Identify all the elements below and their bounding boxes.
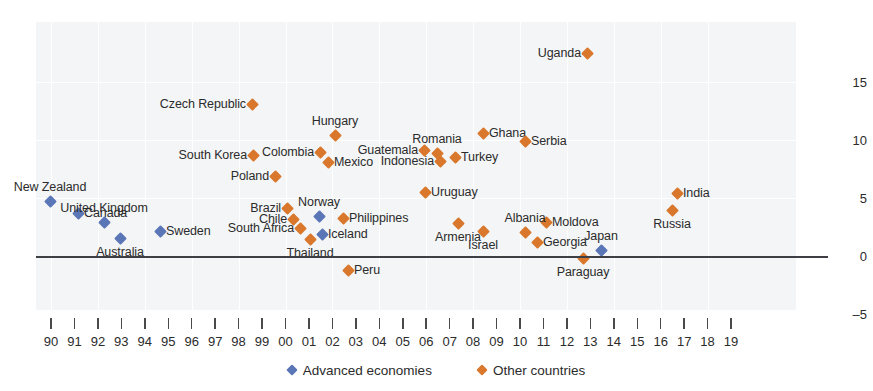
x-axis-tick-mark [285,318,287,329]
x-axis-tick-label: 93 [114,334,128,349]
x-axis-tick-mark [449,318,451,329]
data-point-label: Israel [468,239,498,252]
x-axis-tick-label: 10 [513,334,527,349]
data-point-label: South Korea [179,149,247,162]
gridline-vertical [192,22,193,310]
data-point-label: Uruguay [431,186,478,199]
x-axis-tick-mark [214,318,216,329]
x-axis-tick-label: 04 [372,334,386,349]
x-axis-tick-mark [121,318,123,329]
x-axis-tick-mark [144,318,146,329]
x-axis-tick-label: 14 [607,334,621,349]
x-axis-tick-label: 01 [302,334,316,349]
gridline-vertical [239,22,240,310]
x-axis-tick-label: 94 [138,334,152,349]
x-axis-tick-label: 05 [396,334,410,349]
x-axis-tick-label: 95 [161,334,175,349]
y-axis-tick-label: 10 [827,133,867,148]
data-point-label: Ghana [489,127,526,140]
x-axis-tick-label: 17 [677,334,691,349]
data-point-label: Poland [231,170,269,183]
x-axis-tick-label: 07 [442,334,456,349]
gridline-vertical [98,22,99,310]
x-axis-tick-mark [683,318,685,329]
data-point-label: South Africa [228,222,294,235]
data-point-label: Colombia [262,146,314,159]
data-point-label: Russia [653,218,691,231]
x-axis-tick-label: 16 [653,334,667,349]
y-axis-tick-label: 5 [827,191,867,206]
x-axis-tick-mark [97,318,99,329]
x-axis-tick-mark [402,318,404,329]
x-axis-tick-label: 96 [184,334,198,349]
data-point-label: United Kingdom [60,202,148,215]
x-axis-tick-label: 09 [489,334,503,349]
data-point-label: Uganda [538,47,581,60]
legend-label-other: Other countries [493,363,585,378]
gridline-vertical [286,22,287,310]
x-axis-tick-mark [730,318,732,329]
data-point-label: Japan [584,230,618,243]
x-axis-tick-label: 15 [630,334,644,349]
x-axis-tick-mark [543,318,545,329]
legend-item-advanced[interactable]: Advanced economies [288,363,432,378]
x-axis-tick-label: 00 [278,334,292,349]
x-axis-tick-mark [613,318,615,329]
gridline-vertical [520,22,521,310]
data-point-label: Indonesia [381,155,434,168]
y-axis-tick-label: 15 [827,75,867,90]
x-axis-tick-mark [332,318,334,329]
x-axis-tick-label: 13 [583,334,597,349]
data-point-label: Norway [298,196,340,209]
data-point-label: Georgia [543,236,587,249]
scatter-chart: New ZealandCanadaUnited KingdomAustralia… [0,0,873,391]
data-point-label: Moldova [552,216,599,229]
gridline-vertical [51,22,52,310]
x-axis-tick-mark [425,318,427,329]
x-axis-tick-mark [308,318,310,329]
data-point-label: Hungary [312,115,359,128]
legend-item-other[interactable]: Other countries [478,363,585,378]
x-axis-tick-mark [238,318,240,329]
legend-label-advanced: Advanced economies [303,363,432,378]
x-axis-tick-label: 19 [724,334,738,349]
x-axis-tick-mark [355,318,357,329]
data-point-label: Peru [354,264,380,277]
x-axis-tick-label: 12 [560,334,574,349]
diamond-marker-icon [286,364,297,375]
x-axis-tick-mark [660,318,662,329]
gridline-horizontal [36,82,796,83]
x-axis-tick-label: 99 [255,334,269,349]
chart-legend: Advanced economies Other countries [0,358,873,382]
data-point-label: India [683,187,710,200]
data-point-label: Paraguay [557,266,610,279]
gridline-vertical [145,22,146,310]
x-axis-tick-mark [191,318,193,329]
x-axis-tick-mark [50,318,52,329]
data-point-label: Czech Republic [160,98,246,111]
x-axis-tick-label: 18 [700,334,714,349]
x-axis-tick-label: 08 [466,334,480,349]
gridline-vertical [473,22,474,310]
x-axis-tick-mark [707,318,709,329]
data-point-label: Romania [412,133,461,146]
gridline-vertical [661,22,662,310]
data-point-label: New Zealand [14,181,87,194]
x-axis-tick-label: 90 [44,334,58,349]
data-point-label: Philippines [349,212,408,225]
x-axis-tick-mark [74,318,76,329]
x-axis-tick-label: 06 [419,334,433,349]
x-axis-tick-label: 11 [537,334,551,349]
x-axis-tick-label: 91 [67,334,81,349]
data-point-label: Sweden [166,225,211,238]
x-axis-tick-mark [472,318,474,329]
x-axis-tick-label: 98 [231,334,245,349]
x-axis-tick-mark [566,318,568,329]
gridline-horizontal [36,198,796,199]
x-axis-tick-mark [519,318,521,329]
data-point-label: Turkey [461,151,498,164]
data-point-label: Mexico [334,156,373,169]
diamond-marker-icon [476,364,487,375]
x-axis-tick-mark [379,318,381,329]
x-axis-tick-mark [590,318,592,329]
